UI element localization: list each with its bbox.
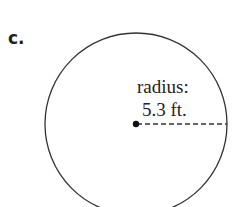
center-point: [133, 121, 139, 127]
radius-label-line2: 5.3 ft.: [142, 99, 187, 120]
circle-outline: [45, 33, 227, 207]
radius-label-line1: radius:: [137, 76, 189, 97]
circle-diagram: radius: 5.3 ft.: [0, 0, 235, 207]
